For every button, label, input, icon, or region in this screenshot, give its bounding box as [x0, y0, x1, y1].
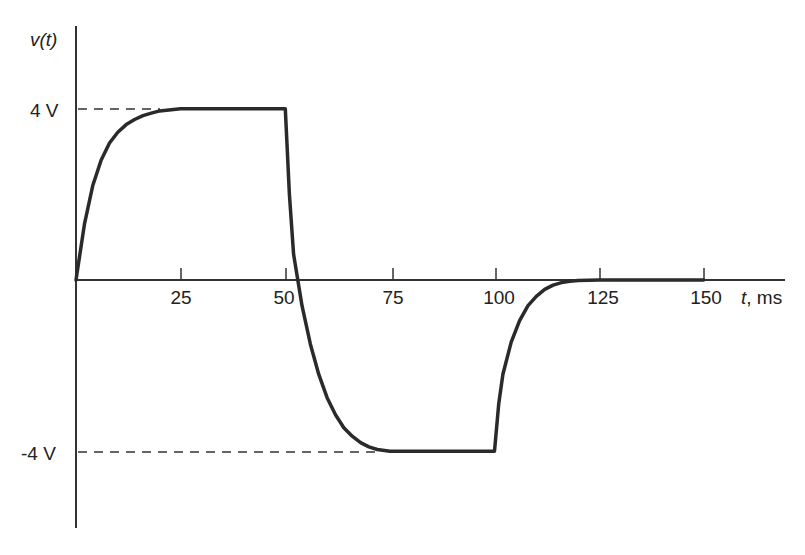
x-ticks	[181, 268, 704, 280]
x-axis-label-unit: , ms	[746, 287, 782, 308]
x-axis-label: t, ms	[741, 287, 782, 308]
y-axis-label: v(t)	[30, 29, 57, 50]
x-tick-label-50: 50	[273, 287, 294, 308]
y-tick-label-4v: 4 V	[30, 100, 59, 121]
x-tick-label-125: 125	[587, 287, 619, 308]
y-tick-label-neg4v: -4 V	[21, 443, 56, 464]
x-tick-label-100: 100	[483, 287, 515, 308]
x-tick-label-75: 75	[382, 287, 403, 308]
x-tick-label-150: 150	[690, 287, 722, 308]
x-tick-label-25: 25	[170, 287, 191, 308]
voltage-waveform-chart: v(t) 4 V -4 V 25 50 75 100 125 150 t, ms	[0, 0, 805, 555]
